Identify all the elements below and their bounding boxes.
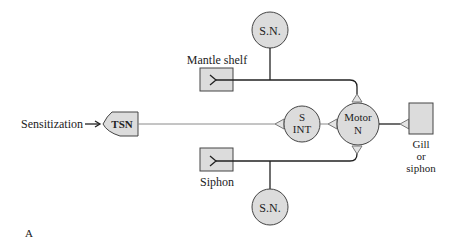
gill-effector [409,103,433,134]
sensory-neuron-bottom-label: S.N. [259,201,280,215]
motor-neuron-label-1: Motor [344,111,372,123]
motor-neuron-label-2: N [354,124,362,136]
siphon-receptor [200,148,233,171]
siphon-label: Siphon [200,175,234,189]
s-interneuron-label-2: INT [293,123,312,135]
gill-label-3: siphon [406,162,436,174]
mantle-shelf-label: Mantle shelf [187,53,247,67]
gill-label-2: or [416,150,426,162]
siphon-pathway [216,147,357,161]
synapse-sint-triangle [275,119,284,129]
sensitization-circuit-diagram: S.N. Mantle shelf Sensitization TSN S IN… [0,0,461,246]
gill-label-1: Gill [412,138,429,150]
s-interneuron-label-1: S [299,111,305,123]
sensitization-label: Sensitization [21,117,83,131]
synapse-gill-triangle [400,119,409,129]
panel-label: A [25,227,33,239]
tsn-label: TSN [111,118,132,130]
synapse-top-triangle [352,94,362,102]
sensory-neuron-top-label: S.N. [259,24,280,38]
synapse-bottom-triangle [352,146,362,154]
synapse-motor-triangle [328,119,337,129]
mantle-shelf-pathway [216,80,357,94]
